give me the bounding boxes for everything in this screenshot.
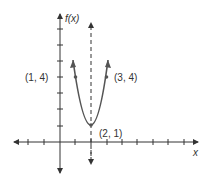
curve-arrow-left-icon	[70, 60, 76, 68]
vertex-label: (2, 1)	[99, 128, 122, 139]
point-1-4	[74, 75, 78, 79]
curve-arrow-right-icon	[105, 60, 111, 68]
parabola-graph: f(x) x (1, 4) (3, 4) (2, 1)	[0, 0, 208, 181]
vertex-point	[89, 123, 93, 127]
point-right-label: (3, 4)	[114, 72, 137, 83]
x-axis-label: x	[192, 147, 199, 158]
y-axis-label: f(x)	[65, 13, 79, 24]
x-axis	[14, 139, 198, 145]
point-left-label: (1, 4)	[25, 72, 48, 83]
point-3-4	[105, 75, 109, 79]
y-axis	[57, 14, 63, 173]
